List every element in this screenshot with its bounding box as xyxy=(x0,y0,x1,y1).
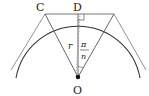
geometry-diagram: C D O r π n xyxy=(0,0,149,96)
center-point xyxy=(76,75,80,79)
label-pi: π xyxy=(80,40,87,49)
tangent-left xyxy=(11,14,45,70)
tangent-right xyxy=(114,14,146,70)
angle-arc xyxy=(78,66,84,68)
right-angle-mark xyxy=(78,14,84,20)
label-n: n xyxy=(81,52,86,61)
label-C: C xyxy=(36,1,44,14)
label-D: D xyxy=(73,1,82,14)
label-r: r xyxy=(68,41,73,51)
segment-OC xyxy=(45,14,78,77)
label-O: O xyxy=(73,84,82,96)
